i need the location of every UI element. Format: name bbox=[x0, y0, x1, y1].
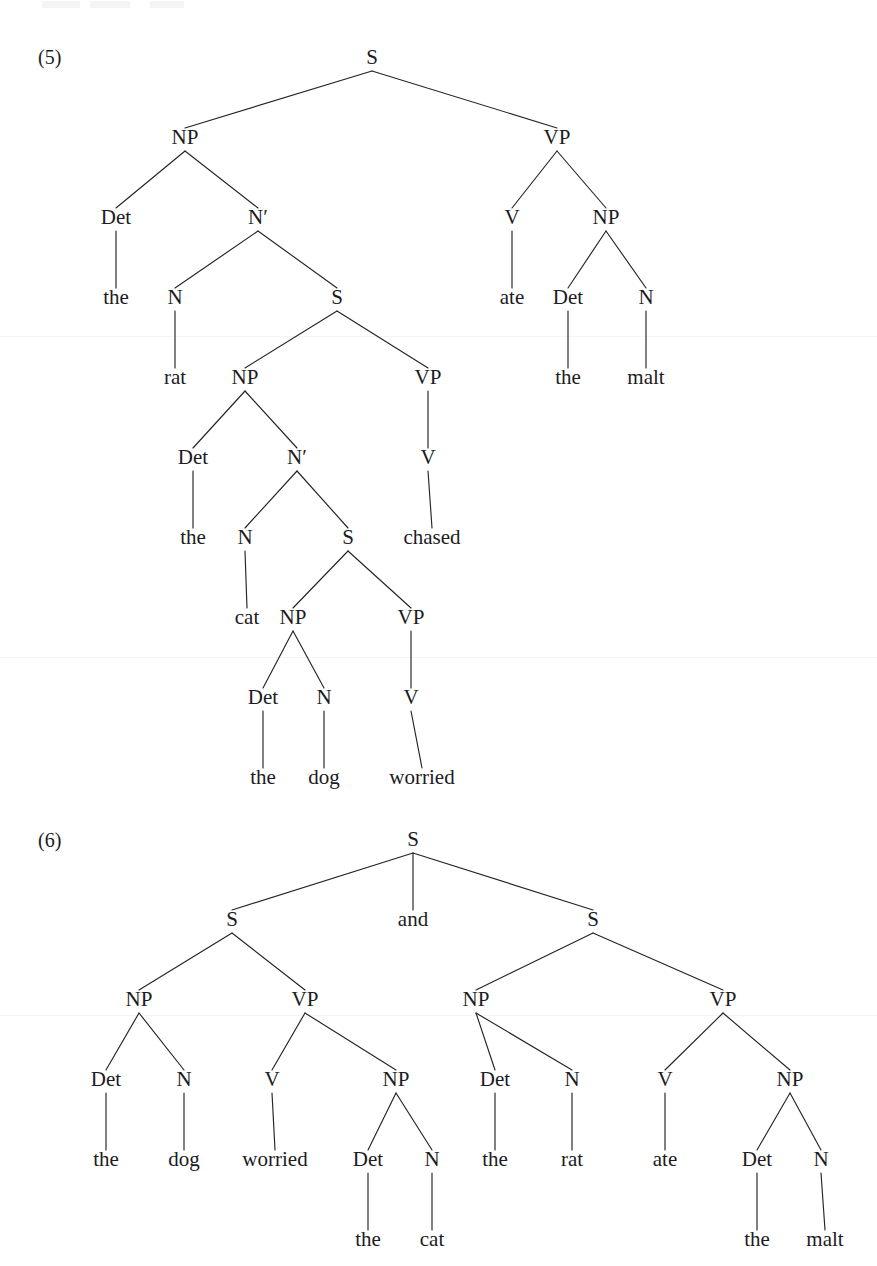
terminal-the-left-obj: the bbox=[355, 1227, 381, 1251]
node-det-left-subj: Det bbox=[91, 1067, 121, 1091]
edge-npleftobj-n bbox=[396, 1093, 432, 1150]
node-det-left-obj: Det bbox=[353, 1147, 383, 1171]
terminal-the-left-subj: the bbox=[93, 1147, 119, 1171]
node-n-right-obj: N bbox=[813, 1147, 828, 1171]
node-s-right: S bbox=[587, 907, 599, 931]
edge-npright-n bbox=[476, 1013, 572, 1070]
terminal-rat: rat bbox=[561, 1147, 583, 1171]
syntax-tree-example-6: (6)SSandSNPVPNPVPDetNVNPDetNVNPthedogwor… bbox=[0, 0, 877, 1266]
edge-npright-det bbox=[476, 1013, 495, 1070]
page-canvas: (5)SNPVPDetN′VNPtheNSateDetNratNPVPthema… bbox=[0, 0, 877, 1266]
edge-nprightobj-det bbox=[757, 1093, 790, 1150]
terminal-and: and bbox=[398, 907, 429, 931]
edge-npleftobj-det bbox=[368, 1093, 396, 1150]
node-v-right: V bbox=[657, 1067, 672, 1091]
edge-vpleft-np bbox=[305, 1013, 396, 1070]
edge-sleft-np bbox=[139, 933, 232, 990]
node-det-right-subj: Det bbox=[480, 1067, 510, 1091]
node-np-right-obj: NP bbox=[777, 1067, 804, 1091]
edge-nrightobj-malt bbox=[821, 1173, 825, 1230]
edge-nprightobj-n bbox=[790, 1093, 821, 1150]
terminal-the-right-subj: the bbox=[482, 1147, 508, 1171]
terminal-dog: dog bbox=[168, 1147, 200, 1171]
edge-sleft-vp bbox=[232, 933, 305, 990]
edge-vpright-v bbox=[665, 1013, 723, 1070]
edge-vleft-worried bbox=[272, 1093, 275, 1150]
node-s-left: S bbox=[226, 907, 238, 931]
edge-sright-np bbox=[476, 933, 593, 990]
terminal-malt: malt bbox=[806, 1227, 843, 1251]
node-np-right: NP bbox=[463, 987, 490, 1011]
node-det-right-obj: Det bbox=[742, 1147, 772, 1171]
edge-sright-vp bbox=[593, 933, 723, 990]
edge-vpright-np bbox=[723, 1013, 790, 1070]
terminal-ate: ate bbox=[653, 1147, 677, 1171]
terminal-cat: cat bbox=[420, 1227, 445, 1251]
node-vp-left: VP bbox=[292, 987, 319, 1011]
node-vp-right: VP bbox=[710, 987, 737, 1011]
edge-npleft-n bbox=[139, 1013, 184, 1070]
node-n-left-obj: N bbox=[424, 1147, 439, 1171]
terminal-worried: worried bbox=[242, 1147, 308, 1171]
node-np-left-obj: NP bbox=[383, 1067, 410, 1091]
terminal-the-right-obj: the bbox=[744, 1227, 770, 1251]
node-np-left: NP bbox=[126, 987, 153, 1011]
node-v-left: V bbox=[264, 1067, 279, 1091]
example-number-example-6: (6) bbox=[38, 829, 61, 852]
edge-npleft-det bbox=[106, 1013, 139, 1070]
node-s-root: S bbox=[407, 827, 419, 851]
node-n-left-subj: N bbox=[176, 1067, 191, 1091]
edge-root-sright bbox=[413, 853, 593, 910]
edge-root-sleft bbox=[232, 853, 413, 910]
node-n-right-subj: N bbox=[564, 1067, 579, 1091]
edge-vpleft-v bbox=[272, 1013, 305, 1070]
